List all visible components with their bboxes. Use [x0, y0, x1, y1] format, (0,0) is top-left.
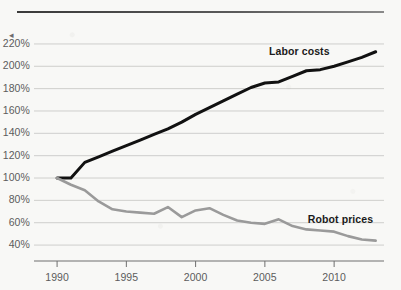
series-line-robot-prices: [57, 178, 376, 241]
x-axis: [34, 261, 384, 267]
y-tick-label: 140%: [3, 126, 30, 138]
x-tick-label: 2010: [304, 271, 364, 283]
y-tick-label: 200%: [3, 59, 30, 71]
y-tick-label: 40%: [9, 238, 30, 250]
series-label-labor-costs: Labor costs: [269, 45, 330, 57]
x-tick-label: 1990: [27, 271, 87, 283]
y-tick-label: 160%: [3, 104, 30, 116]
x-tick-label: 2005: [235, 271, 295, 283]
y-tick-label: 80%: [9, 193, 30, 205]
y-tick-label: 220%: [3, 37, 30, 49]
y-tick-label: 180%: [3, 82, 30, 94]
series-line-labor-costs: [57, 52, 376, 178]
chart-figure: ◂ 220%200%180%160%140%120%100%80%60%40% …: [0, 0, 401, 290]
chart-plot-area: [0, 0, 401, 290]
x-tick-label: 1995: [96, 271, 156, 283]
y-tick-label: 100%: [3, 171, 30, 183]
series-lines: [57, 52, 376, 241]
y-tick-label: 60%: [9, 216, 30, 228]
y-tick-label: 120%: [3, 149, 30, 161]
series-label-robot-prices: Robot prices: [308, 213, 373, 225]
x-tick-label: 2000: [166, 271, 226, 283]
